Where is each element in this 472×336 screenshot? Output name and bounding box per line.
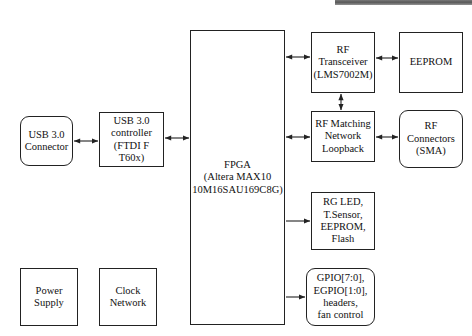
- node-label-clock-network: Clock Network: [108, 285, 149, 310]
- node-label-usb-connector: USB 3.0 Connector: [23, 129, 71, 154]
- node-usb-connector: USB 3.0 Connector: [20, 116, 73, 166]
- node-power-supply: Power Supply: [20, 268, 78, 326]
- node-rf-connectors: RF Connectors (SMA): [399, 110, 463, 168]
- artifact-top-scan-bar: [335, 0, 472, 5]
- node-label-fpga: FPGA (Altera MAX10 10M16SAU169C8G): [190, 159, 284, 196]
- node-rf-matching: RF Matching Network Loopback: [311, 111, 375, 162]
- node-rf-transceiver: RF Transceiver (LMS7002M): [311, 32, 375, 93]
- node-label-usb-controller: USB 3.0 controller (FTDI F T60x): [100, 115, 163, 165]
- node-label-power-supply: Power Supply: [32, 285, 66, 310]
- node-clock-network: Clock Network: [99, 268, 157, 326]
- node-label-rf-connectors: RF Connectors (SMA): [405, 120, 457, 157]
- node-fpga: FPGA (Altera MAX10 10M16SAU169C8G): [190, 30, 285, 325]
- node-label-rf-matching: RF Matching Network Loopback: [313, 118, 373, 155]
- node-eeprom: EEPROM: [399, 32, 463, 93]
- block-diagram-canvas: USB 3.0 ConnectorUSB 3.0 controller (FTD…: [0, 0, 472, 336]
- node-label-peripherals: RG LED, T.Sensor, EEPROM, Flash: [318, 196, 367, 246]
- node-label-gpio: GPIO[7:0], EGPIO[1:0], headers, fan cont…: [312, 272, 370, 322]
- node-peripherals: RG LED, T.Sensor, EEPROM, Flash: [311, 192, 375, 250]
- node-usb-controller: USB 3.0 controller (FTDI F T60x): [99, 112, 164, 167]
- node-gpio: GPIO[7:0], EGPIO[1:0], headers, fan cont…: [306, 268, 375, 326]
- node-label-eeprom: EEPROM: [408, 56, 455, 68]
- node-label-rf-transceiver: RF Transceiver (LMS7002M): [312, 44, 375, 81]
